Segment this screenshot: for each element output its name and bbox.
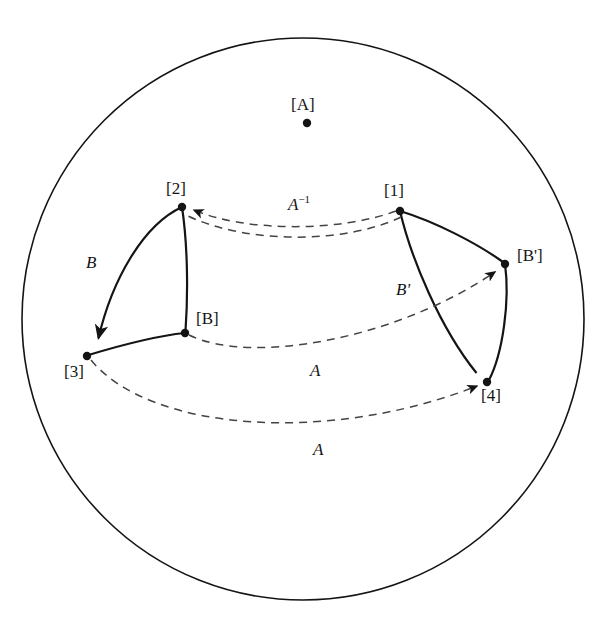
- arc-3-to-4: [91, 360, 477, 423]
- node-dot-1[interactable]: [396, 207, 404, 215]
- node-dot-A[interactable]: [303, 119, 311, 127]
- arc-B-to-Bp: [189, 272, 495, 348]
- edge-Bp-to-4: [489, 264, 507, 380]
- node-label-Bprime: [B']: [517, 247, 543, 264]
- node-dot-2[interactable]: [178, 203, 186, 211]
- edge-label-Bprime: B': [396, 281, 410, 298]
- hyperbolic-disk-figure: [A] [2] [1] [B] [3] [B'] [4] B B' A−1 A …: [0, 0, 602, 627]
- node-label-A: [A]: [291, 96, 315, 113]
- edge-B-to-3: [89, 333, 186, 355]
- arc-label-A-middle: A: [310, 362, 320, 379]
- node-label-3: [3]: [64, 363, 84, 380]
- edge-1-to-Bp: [400, 211, 503, 262]
- edge-label-B: B: [86, 254, 96, 271]
- node-label-1: [1]: [384, 182, 404, 199]
- node-label-4: [4]: [481, 387, 501, 404]
- node-dot-3[interactable]: [83, 352, 91, 360]
- arc-label-A-lower: A: [313, 441, 323, 458]
- edge-2-to-B: [182, 207, 187, 331]
- node-dot-Bp[interactable]: [501, 260, 509, 268]
- node-dot-4[interactable]: [483, 378, 491, 386]
- node-label-2: [2]: [166, 180, 186, 197]
- node-dot-B[interactable]: [181, 329, 189, 337]
- arc-label-A-inverse: A−1: [288, 194, 310, 213]
- edge-1-to-4: [400, 211, 477, 373]
- arc-label-A-inverse-exponent: −1: [298, 193, 310, 205]
- arc-label-A-inverse-base: A: [288, 195, 298, 214]
- node-label-B: [B]: [196, 310, 219, 327]
- edge-2-to-3: [99, 207, 183, 338]
